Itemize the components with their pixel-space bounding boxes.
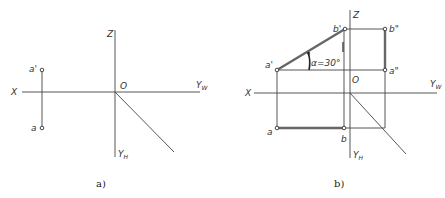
label-yh: YH bbox=[118, 149, 129, 160]
projection-diagram: X Z O YW YH a' a a) bbox=[0, 0, 445, 198]
caption-a: a) bbox=[96, 178, 106, 189]
point-b bbox=[342, 126, 346, 130]
panel-a: X Z O YW YH a' a a) bbox=[10, 29, 209, 189]
point-b-prime bbox=[343, 27, 347, 31]
label-z: Z bbox=[106, 29, 114, 39]
label-b-dprime: b" bbox=[389, 24, 399, 34]
label-a: a bbox=[31, 123, 37, 133]
label-yw: YW bbox=[430, 79, 443, 90]
label-a-dprime: a" bbox=[389, 66, 399, 76]
point-a-dprime bbox=[383, 68, 387, 72]
label-origin: O bbox=[352, 75, 359, 85]
point-b-dprime bbox=[383, 27, 387, 31]
panel-b: X Z O YW YH a' b' b" a" a b α=30° b) bbox=[244, 10, 443, 189]
caption-b: b) bbox=[334, 178, 344, 189]
point-a-prime bbox=[275, 68, 279, 72]
point-a-prime bbox=[40, 68, 44, 72]
label-b-prime: b' bbox=[333, 24, 341, 34]
label-x: X bbox=[10, 87, 18, 97]
label-yh: YH bbox=[353, 150, 364, 161]
diagonal-45-line bbox=[115, 92, 174, 152]
point-a bbox=[40, 126, 44, 130]
label-origin: O bbox=[120, 81, 127, 91]
label-yw: YW bbox=[196, 80, 209, 91]
label-a-prime: a' bbox=[265, 60, 273, 70]
label-b: b bbox=[341, 134, 347, 144]
label-x: X bbox=[244, 88, 252, 98]
label-z: Z bbox=[352, 10, 360, 20]
label-a-prime: a' bbox=[29, 64, 37, 74]
diagonal-45-line bbox=[350, 93, 406, 154]
label-angle: α=30° bbox=[311, 58, 340, 68]
point-a bbox=[275, 126, 279, 130]
label-a: a bbox=[267, 127, 273, 137]
